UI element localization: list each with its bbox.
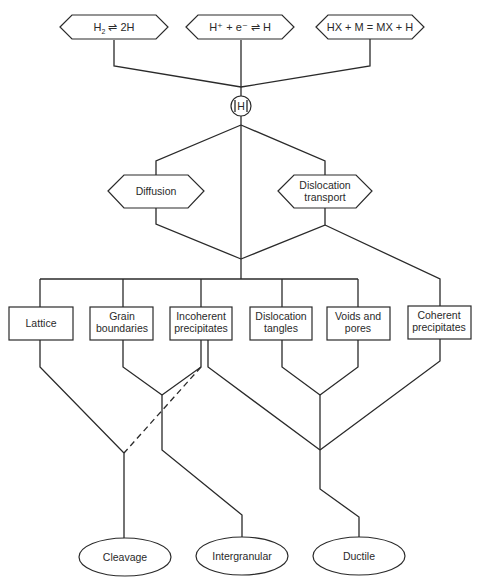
- edge-hx-to-h: [241, 39, 370, 87]
- edge-dislocation-transport-merge: [241, 208, 325, 259]
- edge-to-ductile: [320, 450, 359, 537]
- source-hx-reaction: HX + M = MX + H: [316, 15, 424, 39]
- trap-label-1: Incoherent: [176, 310, 226, 322]
- source-h2-dissociation: H2 ⇌ 2H: [60, 15, 168, 39]
- edge-lattice-to-cleavage: [40, 339, 124, 539]
- trap-label: Lattice: [26, 317, 57, 329]
- trap-label-2: boundaries: [96, 322, 148, 334]
- source-hplus-reduction: H⁺ + e⁻ ⇌ H: [186, 15, 294, 39]
- hydrogen-embrittlement-flow-diagram: H2 ⇌ 2H H⁺ + e⁻ ⇌ H HX + M = MX + H H Di…: [0, 0, 484, 582]
- edge-diffusion-merge: [156, 208, 241, 259]
- fracture-label: Intergranular: [212, 550, 272, 562]
- trap-label-1: Grain: [109, 310, 135, 322]
- transport-dislocation: Dislocation transport: [278, 175, 372, 208]
- edge-coherent-to-ductile: [320, 339, 440, 450]
- edge-junction-to-intergranular: [162, 395, 242, 537]
- edge-h-to-dislocation-transport: [241, 125, 325, 175]
- edge-dislocation-tangles-to-junction: [282, 339, 320, 395]
- trap-label-2: precipitates: [174, 322, 228, 334]
- trap-label-1: Dislocation: [255, 310, 307, 322]
- trap-coherent-precipitates: Coherent precipitates: [408, 306, 471, 339]
- fracture-label: Ductile: [343, 550, 375, 562]
- trap-dislocation-tangles: Dislocation tangles: [250, 307, 312, 340]
- fracture-ductile: Ductile: [313, 537, 405, 575]
- equation-hx: HX + M = MX + H: [327, 21, 414, 33]
- fracture-label: Cleavage: [103, 551, 148, 563]
- dislocation-transport-label-1: Dislocation: [299, 179, 351, 191]
- edge-h2-to-h: [114, 40, 241, 87]
- edge-voids-to-junction: [320, 339, 358, 395]
- trap-label-1: Voids and: [335, 310, 381, 322]
- atomic-hydrogen-node: H: [231, 96, 251, 116]
- dislocation-transport-label-2: transport: [304, 191, 346, 203]
- diffusion-label: Diffusion: [136, 185, 177, 197]
- edge-dislocation-transport-to-coherent: [325, 225, 440, 307]
- trap-label-2: tangles: [264, 322, 298, 334]
- edge-incoherent-left-to-junction: [162, 339, 201, 395]
- trap-incoherent-precipitates: Incoherent precipitates: [170, 307, 232, 340]
- edge-grain-to-junction: [123, 339, 162, 395]
- trap-lattice: Lattice: [9, 307, 73, 340]
- trap-label-1: Coherent: [417, 309, 460, 321]
- fracture-intergranular: Intergranular: [196, 537, 288, 575]
- trap-label-2: pores: [345, 322, 371, 334]
- h-label: H: [237, 100, 245, 112]
- trap-grain-boundaries: Grain boundaries: [90, 307, 153, 340]
- trap-label-2: precipitates: [412, 321, 466, 333]
- equation-h2: H2 ⇌ 2H: [93, 21, 134, 35]
- edge-h-to-diffusion: [156, 125, 241, 175]
- trap-voids-and-pores: Voids and pores: [327, 307, 390, 340]
- fracture-cleavage: Cleavage: [79, 538, 171, 576]
- edge-incoherent-right-to-ductile: [208, 339, 320, 450]
- equation-hplus: H⁺ + e⁻ ⇌ H: [209, 21, 271, 33]
- transport-diffusion: Diffusion: [108, 175, 204, 208]
